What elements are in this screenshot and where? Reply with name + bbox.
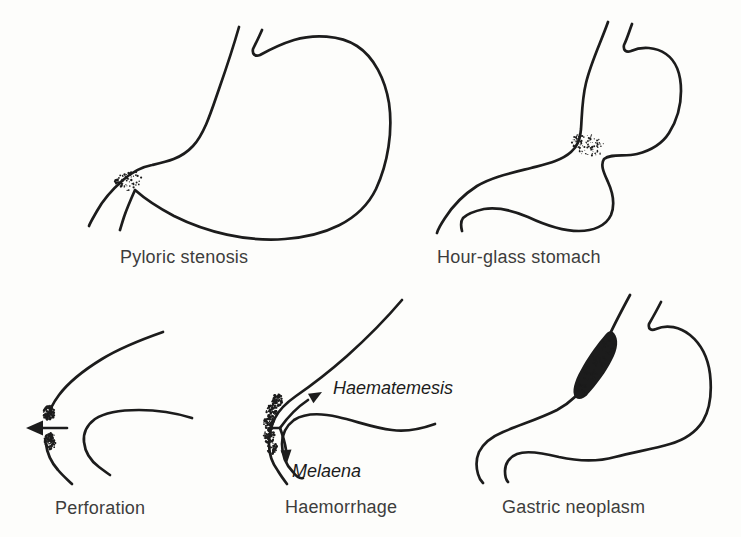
stomach-greater-curve-line xyxy=(505,302,711,482)
gastric-neoplasm-figure xyxy=(0,0,741,537)
annotation-haematemesis: Haematemesis xyxy=(333,379,453,398)
tumour-mass xyxy=(573,331,617,399)
caption-pyloric-stenosis: Pyloric stenosis xyxy=(120,248,248,267)
caption-gastric-neoplasm: Gastric neoplasm xyxy=(502,498,645,517)
caption-hour-glass-stomach: Hour-glass stomach xyxy=(437,248,601,267)
annotation-melaena: Melaena xyxy=(292,462,361,481)
stomach-disorders-diagram: Pyloric stenosis Hour-glass stomach Perf… xyxy=(0,0,741,537)
caption-perforation: Perforation xyxy=(55,499,145,518)
caption-haemorrhage: Haemorrhage xyxy=(285,498,397,517)
